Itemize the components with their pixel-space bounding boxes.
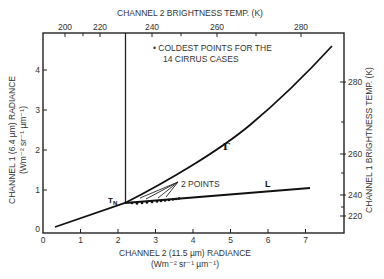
l-line	[55, 188, 310, 227]
legend-line-2: 14 CIRRUS CASES	[163, 54, 239, 64]
svg-text:5: 5	[228, 235, 233, 245]
svg-text:4: 4	[191, 235, 196, 245]
svg-text:220: 220	[348, 211, 362, 221]
svg-text:0: 0	[35, 224, 40, 234]
svg-text:3: 3	[35, 105, 40, 115]
y-axis-tick-labels: 0 1 2 3 4	[35, 65, 40, 234]
right-axis-title: CHANNEL 1 BRIGHTNESS TEMP. (K)	[364, 67, 374, 213]
svg-text:1: 1	[35, 185, 40, 195]
gamma-label: Γ	[223, 141, 230, 152]
svg-text:200: 200	[58, 22, 72, 32]
svg-text:0: 0	[41, 235, 46, 245]
right-axis-tick-labels: 280 260 240 220	[348, 77, 362, 221]
svg-text:240: 240	[348, 190, 362, 200]
tn-label: TN	[108, 196, 117, 206]
y-axis-title: CHANNEL 1 (6.4 µm) RADIANCE	[7, 76, 17, 204]
svg-text:7: 7	[303, 235, 308, 245]
svg-text:1: 1	[78, 235, 83, 245]
gamma-curve	[125, 46, 332, 203]
svg-text:3: 3	[153, 235, 158, 245]
svg-text:280: 280	[294, 22, 308, 32]
legend-line-1: • COLDEST POINTS FOR THE	[153, 43, 272, 53]
svg-text:2: 2	[35, 145, 40, 155]
top-axis-tick-labels: 200 220 240 260 280	[58, 22, 308, 32]
svg-text:260: 260	[348, 149, 362, 159]
right-axis-ticks	[340, 82, 346, 216]
svg-text:4: 4	[35, 65, 40, 75]
chart: 0 1 2 3 4 5 6 7 CHANNEL 2 (11.5 µm) RADI…	[0, 0, 384, 279]
svg-text:220: 220	[93, 22, 107, 32]
x-axis-units: (Wm⁻² sr⁻¹ µm⁻¹)	[151, 259, 219, 269]
svg-text:2: 2	[116, 235, 121, 245]
top-axis-title: CHANNEL 2 BRIGHTNESS TEMP. (K)	[117, 8, 263, 18]
svg-text:6: 6	[266, 235, 271, 245]
x-axis-tick-labels: 0 1 2 3 4 5 6 7	[41, 235, 309, 245]
x-axis-title: CHANNEL 2 (11.5 µm) RADIANCE	[119, 248, 251, 258]
svg-text:260: 260	[210, 22, 224, 32]
svg-text:280: 280	[348, 77, 362, 87]
l-label: L	[265, 179, 271, 189]
svg-text:240: 240	[145, 22, 159, 32]
two-points-label: 2 POINTS	[181, 179, 220, 189]
y-axis-units: (Wm⁻² sr⁻¹ µm⁻¹)	[18, 106, 28, 174]
